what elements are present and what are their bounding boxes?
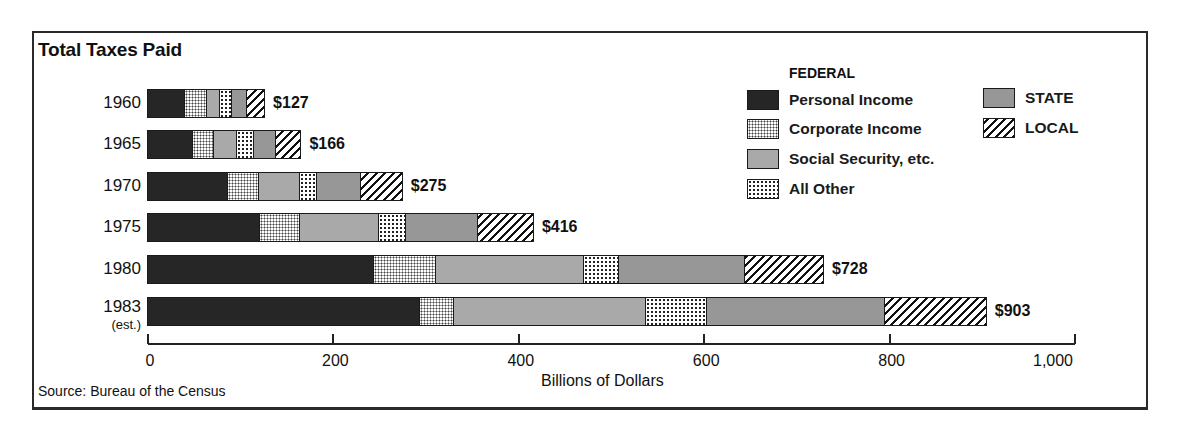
- personal-income-swatch-icon: [747, 90, 779, 110]
- bar-segment-state: [707, 297, 886, 326]
- bar-segment-local: [478, 213, 534, 242]
- bar-segment-corporate-income: [193, 130, 214, 159]
- bar-segment-state: [619, 255, 745, 284]
- legend-label: Personal Income: [789, 91, 913, 109]
- bar-total-label: $903: [995, 302, 1031, 320]
- x-tick-mark: [889, 334, 891, 344]
- source-note: Source: Bureau of the Census: [38, 383, 226, 399]
- legend-label: LOCAL: [1025, 119, 1078, 137]
- bar-total-label: $127: [273, 94, 309, 112]
- corporate-income-swatch-icon: [747, 119, 779, 139]
- legend-federal-heading: FEDERAL: [789, 65, 855, 81]
- year-label: 1965: [81, 134, 141, 154]
- stacked-bar-1965: [147, 130, 301, 159]
- legend-item-corporate-income: Corporate Income: [747, 119, 922, 139]
- x-tick-mark: [703, 334, 705, 344]
- bar-segment-all-other: [646, 297, 706, 326]
- year-sublabel: (est.): [81, 317, 141, 332]
- chart-title: Total Taxes Paid: [38, 39, 182, 61]
- social-security-swatch-icon: [747, 149, 779, 169]
- legend-label: Social Security, etc.: [789, 150, 934, 168]
- bar-total-label: $166: [309, 135, 345, 153]
- bar-segment-personal-income: [147, 213, 260, 242]
- x-tick-label: 600: [693, 352, 720, 370]
- state-swatch-icon: [983, 88, 1015, 108]
- year-label: 1983: [81, 297, 141, 317]
- bar-segment-corporate-income: [228, 172, 259, 201]
- bar-segment-all-other: [237, 130, 254, 159]
- bar-segment-corporate-income: [374, 255, 436, 284]
- legend-label: Corporate Income: [789, 120, 922, 138]
- x-tick-mark: [147, 334, 149, 344]
- bar-segment-social-security-etc: [454, 297, 647, 326]
- bar-segment-local: [885, 297, 986, 326]
- legend-item-social-security: Social Security, etc.: [747, 149, 934, 169]
- bar-total-label: $728: [832, 260, 868, 278]
- bar-segment-state: [406, 213, 479, 242]
- year-label: 1960: [81, 93, 141, 113]
- bar-segment-personal-income: [147, 297, 420, 326]
- x-tick-label: 1,000: [1033, 352, 1073, 370]
- bar-segment-local: [745, 255, 824, 284]
- local-swatch-icon: [983, 118, 1015, 138]
- bar-segment-all-other: [300, 172, 317, 201]
- bar-segment-social-security-etc: [207, 89, 220, 118]
- bar-segment-local: [276, 130, 301, 159]
- bar-segment-state: [232, 89, 248, 118]
- legend-item-state: STATE: [983, 88, 1074, 108]
- year-label: 1975: [81, 217, 141, 237]
- bar-segment-personal-income: [147, 89, 185, 118]
- x-tick-label: 0: [146, 352, 155, 370]
- legend-item-all-other: All Other: [747, 179, 854, 199]
- x-tick-mark: [518, 334, 520, 344]
- bar-segment-state: [254, 130, 276, 159]
- x-axis-label: Billions of Dollars: [541, 372, 664, 390]
- x-tick-label: 400: [507, 352, 534, 370]
- year-label: 1980: [81, 259, 141, 279]
- bar-segment-personal-income: [147, 172, 228, 201]
- x-tick-mark: [1074, 334, 1076, 344]
- bar-total-label: $416: [542, 218, 578, 236]
- bar-segment-social-security-etc: [436, 255, 584, 284]
- bar-segment-all-other: [379, 213, 406, 242]
- x-tick-label: 200: [322, 352, 349, 370]
- x-tick-label: 800: [878, 352, 905, 370]
- stacked-bar-1980: [147, 255, 824, 284]
- bar-segment-local: [247, 89, 265, 118]
- bar-segment-all-other: [584, 255, 619, 284]
- stacked-bar-1960: [147, 89, 265, 118]
- stacked-bar-1975: [147, 213, 534, 242]
- bar-segment-personal-income: [147, 255, 374, 284]
- bar-segment-local: [361, 172, 403, 201]
- bar-segment-social-security-etc: [214, 130, 237, 159]
- legend-item-personal-income: Personal Income: [747, 90, 913, 110]
- x-tick-mark: [332, 334, 334, 344]
- bar-segment-corporate-income: [185, 89, 207, 118]
- all-other-swatch-icon: [747, 179, 779, 199]
- year-label: 1970: [81, 176, 141, 196]
- stacked-bar-1970: [147, 172, 403, 201]
- bar-segment-all-other: [220, 89, 231, 118]
- stacked-bar-1983: [147, 297, 987, 326]
- x-axis-line: [148, 343, 1075, 345]
- bar-segment-state: [317, 172, 361, 201]
- legend-label: STATE: [1025, 89, 1074, 107]
- bar-segment-social-security-etc: [300, 213, 379, 242]
- bar-segment-corporate-income: [420, 297, 453, 326]
- bar-segment-personal-income: [147, 130, 193, 159]
- legend-item-local: LOCAL: [983, 118, 1078, 138]
- bar-total-label: $275: [411, 177, 447, 195]
- legend-label: All Other: [789, 180, 854, 198]
- bar-segment-corporate-income: [260, 213, 299, 242]
- bar-segment-social-security-etc: [259, 172, 301, 201]
